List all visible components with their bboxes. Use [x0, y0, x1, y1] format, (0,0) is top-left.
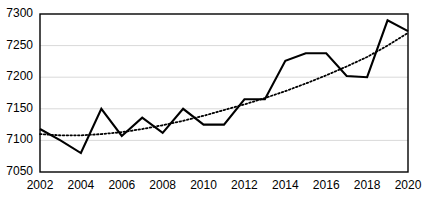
y-axis-tick-label: 7200: [0, 69, 33, 83]
x-axis-tick-label: 2020: [388, 178, 426, 192]
x-axis-tick-label: 2008: [143, 178, 183, 192]
x-axis-tick-label: 2002: [20, 178, 60, 192]
y-axis-tick-label: 7250: [0, 38, 33, 52]
x-axis-tick-label: 2006: [102, 178, 142, 192]
data-series-line: [40, 20, 408, 153]
plot-border: [40, 14, 408, 172]
x-axis-tick-label: 2010: [184, 178, 224, 192]
x-axis-tick-label: 2012: [224, 178, 264, 192]
x-axis-tick-label: 2014: [265, 178, 305, 192]
y-axis-tick-label: 7100: [0, 132, 33, 146]
x-axis-tick-label: 2016: [306, 178, 346, 192]
x-axis-tick-label: 2004: [61, 178, 101, 192]
y-axis-tick-label: 7150: [0, 101, 33, 115]
y-axis-tick-label: 7050: [0, 164, 33, 178]
y-axis-tick-label: 7300: [0, 6, 33, 20]
x-axis-tick-label: 2018: [347, 178, 387, 192]
